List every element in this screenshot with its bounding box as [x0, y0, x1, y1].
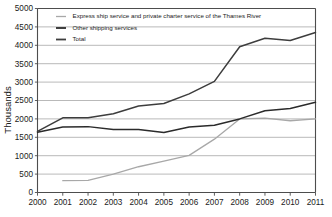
y-tick-label-4000: 4000	[15, 41, 34, 50]
y-tick-label-0: 0	[28, 188, 33, 197]
y-tick-label-2000: 2000	[15, 115, 34, 124]
y-tick-label-1000: 1000	[15, 152, 34, 161]
x-tick-label-2004: 2004	[129, 198, 148, 207]
x-tick-label-2000: 2000	[28, 198, 47, 207]
chart-background	[0, 0, 332, 217]
y-tick-label-500: 500	[19, 170, 33, 179]
x-tick-label-2002: 2002	[79, 198, 98, 207]
y-tick-label-2500: 2500	[15, 96, 34, 105]
y-tick-label-1500: 1500	[15, 133, 34, 142]
x-tick-label-2011: 2011	[307, 198, 325, 207]
y-axis-title: Thousands	[2, 86, 13, 134]
y-tick-label-3000: 3000	[15, 78, 34, 87]
x-tick-label-2003: 2003	[104, 198, 123, 207]
line-chart: 0500100015002000250030003500400045005000…	[0, 0, 332, 217]
x-tick-label-2010: 2010	[281, 198, 300, 207]
chart-container: 0500100015002000250030003500400045005000…	[0, 0, 332, 217]
x-tick-label-2001: 2001	[54, 198, 73, 207]
x-tick-label-2007: 2007	[205, 198, 224, 207]
x-tick-label-2008: 2008	[231, 198, 250, 207]
x-tick-label-2005: 2005	[155, 198, 174, 207]
legend-label-2: Total	[73, 35, 86, 42]
y-tick-label-3500: 3500	[15, 60, 34, 69]
y-tick-label-5000: 5000	[15, 4, 34, 13]
legend-label-1: Other shipping services	[73, 24, 138, 31]
y-tick-label-4500: 4500	[15, 23, 34, 32]
x-tick-label-2009: 2009	[256, 198, 275, 207]
legend-label-0: Express ship service and private charter…	[73, 12, 262, 19]
x-tick-label-2006: 2006	[180, 198, 199, 207]
